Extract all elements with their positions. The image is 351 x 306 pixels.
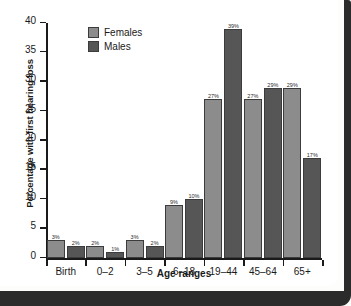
- legend-swatch-icon: [88, 41, 99, 52]
- bar-group: 27%29%: [243, 23, 283, 258]
- bar-value-label: 3%: [52, 234, 60, 240]
- chart-legend: FemalesMales: [88, 27, 142, 55]
- y-axis-tick-label: 25: [25, 103, 36, 114]
- bar-female: 29%: [283, 88, 301, 258]
- bar-male: 17%: [303, 158, 321, 258]
- bar-female: 3%: [126, 240, 144, 258]
- bar-value-label: 3%: [131, 234, 139, 240]
- y-axis-tick-label: 0: [30, 250, 36, 261]
- y-axis-tick-label: 20: [25, 132, 36, 143]
- bar-group: 27%39%: [203, 23, 243, 258]
- x-axis-line: [46, 258, 322, 260]
- bar-value-label: 17%: [307, 152, 318, 158]
- bar-group: 2%1%: [85, 23, 125, 258]
- page-edge-bottom: [0, 291, 351, 306]
- bar-value-label: 1%: [111, 246, 119, 252]
- legend-swatch-icon: [88, 27, 99, 38]
- bar-value-label: 2%: [91, 240, 99, 246]
- y-axis-tick-label: 10: [25, 191, 36, 202]
- y-axis-tick-label: 40: [25, 15, 36, 26]
- bar-male: 2%: [146, 246, 164, 258]
- y-axis-tick-label: 5: [30, 220, 36, 231]
- bar-male: 2%: [67, 246, 85, 258]
- bar-female: 27%: [244, 99, 262, 258]
- bar-group: 3%2%: [46, 23, 86, 258]
- page-edge-right: [344, 0, 351, 291]
- bar-female: 9%: [165, 205, 183, 258]
- bar-male: 10%: [185, 199, 203, 258]
- bar-value-label: 9%: [170, 199, 178, 205]
- legend-label: Females: [104, 27, 142, 38]
- bar-value-label: 27%: [247, 93, 258, 99]
- legend-label: Males: [104, 41, 131, 52]
- y-axis-tick-label: 35: [25, 44, 36, 55]
- bar-male: 39%: [224, 29, 242, 258]
- bar-value-label: 39%: [228, 23, 239, 29]
- bar-female: 2%: [86, 246, 104, 258]
- bar-chart: Percentage with first hearing loss 05101…: [0, 0, 338, 286]
- bar-group: 3%2%: [125, 23, 165, 258]
- y-axis-tick-label: 15: [25, 161, 36, 172]
- scanned-page-frame: Percentage with first hearing loss 05101…: [0, 0, 351, 306]
- plot-area: 0510152025303540 3%2%2%1%3%2%9%10%27%39%…: [46, 23, 322, 260]
- bar-male: 1%: [106, 252, 124, 258]
- bar-group: 9%10%: [164, 23, 204, 258]
- bar-group: 29%17%: [282, 23, 322, 258]
- bar-female: 27%: [204, 99, 222, 258]
- legend-item: Females: [88, 27, 142, 38]
- bar-male: 29%: [264, 88, 282, 258]
- bar-value-label: 29%: [287, 82, 298, 88]
- bar-female: 3%: [47, 240, 65, 258]
- x-axis-label: Age ranges: [46, 268, 322, 279]
- bar-value-label: 2%: [72, 240, 80, 246]
- y-axis-tick-label: 30: [25, 73, 36, 84]
- bar-value-label: 27%: [208, 93, 219, 99]
- bar-value-label: 29%: [267, 82, 278, 88]
- bar-value-label: 10%: [188, 193, 199, 199]
- bar-value-label: 2%: [151, 240, 159, 246]
- legend-item: Males: [88, 41, 142, 52]
